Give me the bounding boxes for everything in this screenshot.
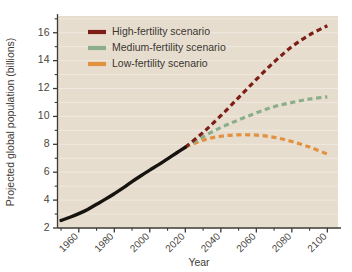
x-tick-label: 2060	[234, 230, 258, 254]
y-tick-label: 4	[44, 193, 50, 205]
y-axis-tick-labels: 246810121416	[38, 26, 50, 233]
legend-label: Low-fertility scenario	[112, 57, 208, 69]
x-axis-tick-labels: 19601980200020202040206020802100	[57, 230, 329, 254]
y-tick-label: 6	[44, 165, 50, 177]
x-tick-label: 2020	[163, 230, 187, 254]
y-tick-label: 12	[38, 81, 50, 93]
x-axis-title: Year	[188, 256, 210, 268]
x-tick-label: 2000	[128, 230, 152, 254]
chart-canvas: 246810121416 196019802000202020402060208…	[0, 0, 352, 272]
population-projection-figure: 246810121416 196019802000202020402060208…	[0, 0, 352, 272]
x-tick-label: 2100	[305, 230, 329, 254]
y-tick-label: 16	[38, 26, 50, 38]
x-tick-label: 1960	[57, 230, 81, 254]
x-tick-label: 1980	[92, 230, 116, 254]
y-tick-label: 8	[44, 137, 50, 149]
legend-label: High-fertility scenario	[112, 25, 210, 37]
x-tick-label: 2080	[270, 230, 294, 254]
x-tick-label: 2040	[199, 230, 223, 254]
x-axis-ticks	[61, 228, 327, 233]
y-axis-title: Projected global population (billions)	[4, 38, 16, 207]
y-axis-ticks	[53, 19, 58, 228]
y-tick-label: 2	[44, 221, 50, 233]
y-tick-label: 10	[38, 109, 50, 121]
y-tick-label: 14	[38, 53, 50, 65]
legend-label: Medium-fertility scenario	[112, 41, 226, 53]
